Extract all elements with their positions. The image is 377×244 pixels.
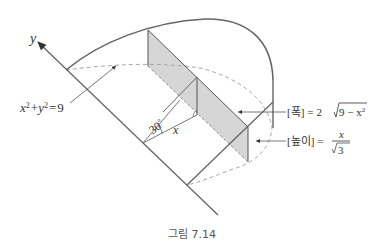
width-label: [폭]=2 9 − x2: [287, 103, 367, 118]
shaded-cross-section: [148, 30, 248, 162]
svg-text:[높이]=: [높이]=: [287, 135, 324, 147]
y-axis[interactable]: [40, 44, 218, 215]
circle-equation: x2+y2=9: [19, 100, 64, 115]
segment-x-label: x: [172, 123, 179, 137]
svg-text:9 − x2: 9 − x2: [339, 106, 366, 118]
svg-text:3: 3: [338, 144, 344, 156]
height-label: [높이]= x 3: [287, 128, 350, 156]
y-axis-label: y: [28, 31, 37, 46]
figure-caption: 그림 7.14: [168, 228, 216, 241]
svg-text:x: x: [338, 128, 344, 140]
solid-cross-section-diagram: y x2+y2=9 30° x [폭]=2 9 − x2 [높이]= x 3 그…: [0, 0, 377, 244]
svg-text:[폭]=2: [폭]=2: [287, 106, 322, 118]
equation-pointer: [70, 66, 116, 103]
